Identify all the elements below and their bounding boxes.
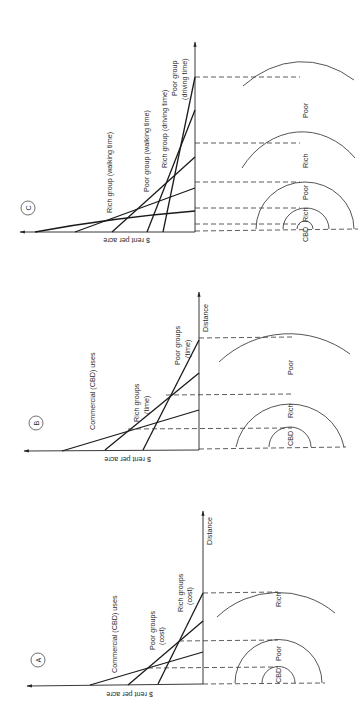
rent-axis-label: $ rent per acre xyxy=(106,690,153,699)
projection-line xyxy=(199,337,292,338)
zone-ring-partial xyxy=(243,62,354,86)
zone-label: CBD xyxy=(286,431,295,446)
curve-label: (time) xyxy=(183,340,192,358)
curve-label: Rich groups xyxy=(176,573,185,612)
panel-letter: A xyxy=(34,657,43,662)
zone-label: CBD xyxy=(274,668,283,683)
curve-poor-walking xyxy=(75,188,195,232)
zone-label: Rich xyxy=(286,404,295,418)
curve-label: Rich groups xyxy=(132,383,141,422)
bid-rent-diagram: C $ rent per acre Rich group (walking ti… xyxy=(0,0,361,711)
panel-letter: C xyxy=(24,205,33,210)
zone-label: Rich xyxy=(301,154,310,168)
zone-ring-partial xyxy=(242,132,355,168)
curve-label: Poor groups xyxy=(173,325,182,365)
curve-label: (cost) xyxy=(185,587,194,605)
distance-axis-label: Distance xyxy=(205,517,214,545)
panel-b: B $ rent per acre Distance Commercial (C… xyxy=(24,292,350,464)
zone-label: Rich xyxy=(274,593,283,607)
curve-label: Commercial (CBD) uses xyxy=(110,595,119,673)
projection-line xyxy=(148,667,278,668)
projection-line xyxy=(166,394,292,395)
projection-line xyxy=(128,428,292,429)
projection-line xyxy=(195,229,358,231)
curve-rich-driving xyxy=(112,157,195,232)
curve-label: (driving time) xyxy=(180,58,189,100)
panel-letter: B xyxy=(32,420,41,425)
rent-axis xyxy=(27,684,203,686)
zone-label: Rich xyxy=(301,208,310,222)
curve-label: (cost) xyxy=(157,627,166,645)
zone-label: Poor xyxy=(274,645,283,661)
curve-label: Rich group (walking time) xyxy=(105,132,114,213)
curve-label: Poor groups xyxy=(148,610,157,650)
zone-label: CBD xyxy=(301,227,310,242)
zone-label: Poor xyxy=(301,184,310,200)
panel-a: A $ rent per acre Distance Commercial (C… xyxy=(27,511,335,699)
zone-label: Poor xyxy=(286,359,295,375)
curve-label: Poor group (walking time) xyxy=(142,110,151,192)
curve-label: (time) xyxy=(142,396,151,414)
rent-axis xyxy=(24,450,199,451)
projection-line xyxy=(179,640,278,641)
projection-line xyxy=(203,683,325,684)
distance-axis-label: Distance xyxy=(201,304,210,332)
zone-ring-partial xyxy=(219,334,350,362)
rent-axis-label: $ rent per acre xyxy=(103,236,150,245)
projection-line xyxy=(199,447,346,449)
rent-axis-label: $ rent per acre xyxy=(104,455,151,464)
panel-c: C $ rent per acre Rich group (walking ti… xyxy=(20,42,358,245)
curve-commercial xyxy=(62,410,199,451)
curve-label: Poor group xyxy=(170,60,179,96)
curve-rich-time xyxy=(105,373,199,450)
curve-label: Commercial (CBD) uses xyxy=(88,352,97,430)
curve-label: Rich group (driving time) xyxy=(160,90,169,168)
zone-label: Poor xyxy=(301,102,310,118)
